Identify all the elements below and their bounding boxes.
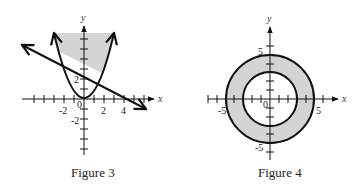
figure-4-caption: Figure 4: [258, 165, 302, 180]
y-tick-label-neg5: -5: [255, 142, 263, 153]
x-axis-label: x: [157, 93, 163, 104]
x-tick-label-neg5: -5: [218, 105, 226, 116]
x-tick-label-4: 4: [121, 105, 126, 116]
y-axis-label: y: [266, 13, 272, 24]
origin-label: 0: [77, 99, 82, 110]
figure-3-caption: Figure 3: [71, 165, 115, 180]
x-tick-label-5: 5: [316, 105, 321, 116]
figures-canvas: y x 0 -2 2 4 2 -2 Figure 3: [0, 0, 364, 186]
x-axis-label: x: [341, 93, 347, 104]
figure-4: y x 0 -5 5 5 -5 Figure 4: [208, 13, 347, 180]
y-tick-label-neg2: -2: [71, 115, 79, 126]
y-tick-label-2: 2: [74, 74, 79, 85]
y-axis-label: y: [80, 12, 86, 23]
origin-label: 0: [263, 99, 268, 110]
x-tick-label-neg2: -2: [59, 105, 67, 116]
x-tick-label-2: 2: [101, 105, 106, 116]
figure-3: y x 0 -2 2 4 2 -2 Figure 3: [22, 12, 163, 180]
y-tick-label-5: 5: [258, 46, 263, 57]
